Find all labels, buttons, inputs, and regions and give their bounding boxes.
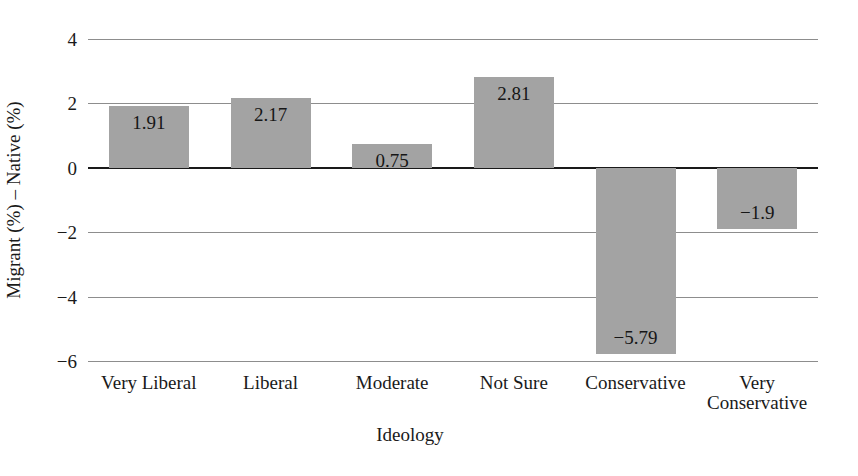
y-axis-title: Migrant (%) – Native (%) [3,101,25,298]
x-axis-category-label: Very Conservative [707,373,807,413]
y-axis-tick-label: −4 [57,287,77,306]
x-axis-category-label: Very Liberal [101,373,196,393]
gridline [88,361,818,362]
bar-value-label: 2.81 [497,84,530,103]
y-axis-tick-label: −6 [57,352,77,371]
bar-value-label: 2.17 [254,105,287,124]
y-axis-tick-label: 2 [68,94,78,113]
x-axis-category-label: Moderate [356,373,429,393]
y-axis-tick-label: 4 [68,30,78,49]
plot-area: 420−2−4−6 1.912.170.752.81−5.79−1.9 [88,39,818,361]
x-axis-title-text: Ideology [376,424,444,446]
x-axis-category-label: Liberal [243,373,298,393]
x-axis-category-label: Not Sure [480,373,548,393]
bar-value-label: 1.91 [132,113,165,132]
y-axis-tick-label: 0 [68,158,78,177]
x-axis-title: Ideology [0,424,858,446]
x-axis-category-label: Conservative [585,373,685,393]
bar-value-label: −5.79 [614,328,658,347]
bar-value-label: 0.75 [376,151,409,170]
bars-layer: 1.912.170.752.81−5.79−1.9 [88,39,818,361]
bar-chart: Migrant (%) – Native (%) 420−2−4−6 1.912… [0,0,858,476]
y-axis-tick-label: −2 [57,223,77,242]
bar-value-label: −1.9 [740,203,774,222]
